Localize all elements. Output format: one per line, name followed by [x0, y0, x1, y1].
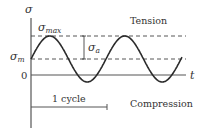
stress-cycle-diagram: σ σmax σm σa 0 t Tension Compression 1 c…	[0, 0, 206, 138]
sigma-mean-label: σm	[10, 50, 25, 64]
compression-label: Compression	[130, 98, 193, 109]
cycle-label: 1 cycle	[52, 93, 86, 104]
sigma-amplitude-label: σa	[88, 41, 100, 55]
sigma-axis-label: σ	[25, 3, 33, 16]
sigma-max-label: σmax	[38, 21, 62, 35]
time-axis-label: t	[190, 69, 195, 82]
tension-label: Tension	[130, 15, 167, 26]
zero-label: 0	[21, 70, 27, 81]
